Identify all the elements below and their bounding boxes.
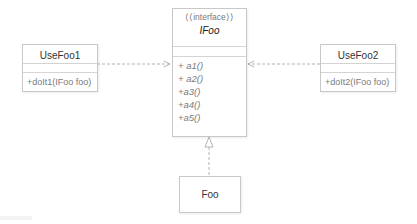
operation: +doIt1(IFoo foo) <box>27 76 97 89</box>
operation-a5: +a5() <box>178 111 246 124</box>
class-usefoo2[interactable]: UseFoo2 +doIt2(IFoo foo) <box>320 44 396 92</box>
operation-a3: +a3() <box>178 85 246 98</box>
dependency-usefoo2-ifoo <box>248 61 320 67</box>
realization-foo-ifoo <box>205 137 213 176</box>
class-usefoo1[interactable]: UseFoo1 +doIt1(IFoo foo) <box>22 44 98 92</box>
operation: +doIt2(IFoo foo) <box>325 76 395 89</box>
operation-a4: +a4() <box>178 98 246 111</box>
operation-a1: + a1() <box>178 59 246 72</box>
class-name: UseFoo1 <box>40 50 81 61</box>
diagram-canvas: UseFoo1 +doIt1(IFoo foo) UseFoo2 +doIt2(… <box>0 0 417 224</box>
dependency-usefoo1-ifoo <box>97 61 170 67</box>
class-foo[interactable]: Foo <box>179 176 241 213</box>
class-name: UseFoo2 <box>338 50 379 61</box>
attributes-compartment <box>23 64 97 73</box>
operation-a2: + a2() <box>178 72 246 85</box>
attributes-compartment <box>173 47 246 57</box>
attributes-compartment <box>321 64 395 73</box>
stereotype-label: ⟨⟨interface⟩⟩ <box>173 12 246 22</box>
scroll-edge <box>0 216 32 220</box>
interface-ifoo[interactable]: ⟨⟨interface⟩⟩ IFoo + a1() + a2() +a3() +… <box>172 8 247 137</box>
class-name: Foo <box>201 189 218 200</box>
interface-name: IFoo <box>173 25 246 36</box>
